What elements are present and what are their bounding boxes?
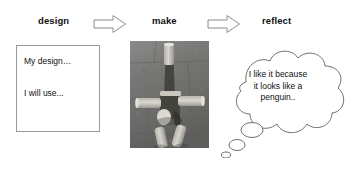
reflect-bubble-line-1: I like it because (228, 69, 328, 81)
design-note-line-1: My design… (24, 56, 71, 66)
reflect-bubble-line-3: penguin.. (228, 92, 328, 104)
design-note-line-2: I will use... (24, 88, 64, 98)
reflect-bubble-text: I like it because it looks like a pengui… (228, 69, 328, 104)
design-note-box: My design… I will use... (16, 45, 100, 132)
stage-label-design: design (38, 15, 69, 26)
reflect-bubble-line-2: it looks like a (228, 81, 328, 93)
process-diagram: design make reflect My design… I will us… (0, 0, 356, 171)
right-arrow-icon (207, 14, 241, 34)
right-arrow-icon (93, 14, 127, 34)
make-photo (130, 41, 209, 148)
stage-label-reflect: reflect (262, 15, 291, 26)
stage-label-make: make (152, 15, 177, 26)
